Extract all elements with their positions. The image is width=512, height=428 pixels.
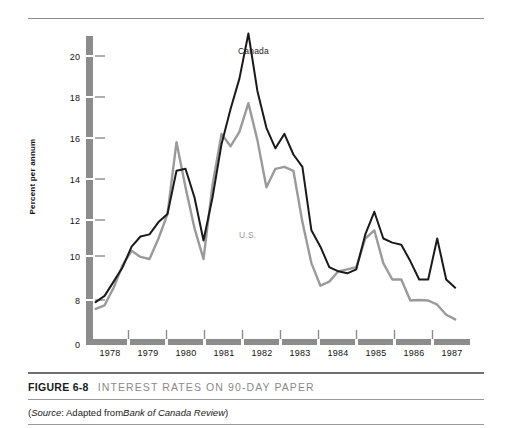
- source-close-paren: ): [225, 407, 228, 418]
- y-axis-bar: [86, 36, 93, 345]
- y-axis-notch: [86, 255, 93, 257]
- figure-title: INTEREST RATES ON 90-DAY PAPER: [98, 381, 315, 393]
- chart-plot: [0, 0, 512, 365]
- caption-bottom-rule: [28, 399, 484, 400]
- y-axis-notch: [86, 137, 93, 139]
- y-axis-notch: [86, 96, 93, 98]
- x-axis-bar: [86, 339, 470, 345]
- series-line-us: [96, 103, 456, 319]
- y-tick-marks: [95, 56, 105, 300]
- figure-source: ( Source : Adapted from Bank of Canada R…: [28, 404, 484, 420]
- chart-figure: Percent per annum 20 18 16 14 12 10 8 0 …: [0, 0, 512, 365]
- source-mid-text: : Adapted from: [61, 407, 123, 418]
- figure-caption: FIGURE 6-8 INTEREST RATES ON 90-DAY PAPE…: [28, 378, 484, 396]
- y-axis-notch: [86, 299, 93, 301]
- caption-top-rule: [28, 372, 484, 374]
- figure-page: Percent per annum 20 18 16 14 12 10 8 0 …: [0, 0, 512, 428]
- bottom-rule: [28, 424, 484, 425]
- y-axis-notch: [86, 219, 93, 221]
- x-tick-marks: [129, 330, 433, 339]
- source-label: Source: [31, 407, 61, 418]
- y-axis-notch: [86, 178, 93, 180]
- y-axis-notch: [86, 55, 93, 57]
- figure-number: FIGURE 6-8: [28, 381, 89, 393]
- source-publication: Bank of Canada Review: [123, 407, 225, 418]
